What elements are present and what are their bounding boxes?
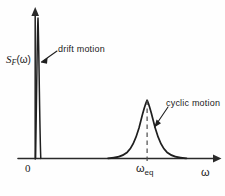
drift-motion-leader: [41, 51, 57, 64]
drift-motion-leader-arrowhead: [41, 58, 48, 64]
x-axis-arrowhead: [213, 155, 222, 163]
y-axis-label-argument: (ω): [16, 54, 30, 65]
drift-motion-label: drift motion: [58, 45, 105, 54]
cyclic-motion-leader: [154, 107, 168, 128]
spectral-density-figure: SF(ω) drift motion cyclic motion 0 ωeq ω: [0, 0, 225, 196]
omega-eq-subscript: eq: [145, 168, 154, 177]
origin-label: 0: [25, 163, 31, 174]
cyclic-motion-leader-arrowhead: [154, 120, 161, 128]
drift-motion-curve: [36, 18, 41, 159]
omega-eq-symbol: ω: [136, 162, 145, 174]
cyclic-motion-label: cyclic motion: [166, 99, 220, 108]
x-axis-label: ω: [201, 167, 210, 178]
omega-eq-tick-label: ωeq: [136, 163, 154, 177]
y-axis-label: SF(ω): [6, 54, 31, 67]
y-axis-arrowhead: [31, 7, 39, 16]
